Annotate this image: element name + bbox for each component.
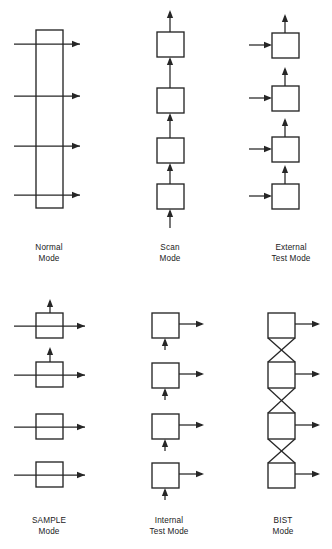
scan-mode-link-arrow-3 [167, 163, 173, 184]
external-test-mode-input-arrow-1 [249, 42, 272, 48]
normal-mode-register-rectangle [36, 30, 63, 208]
panel-internal-test-mode: Internal Test Mode [149, 313, 204, 536]
sample-mode-caption-line2: Mode [38, 527, 59, 536]
external-test-mode-cell-2 [272, 86, 299, 111]
external-test-mode-cell-3 [272, 137, 299, 162]
internal-test-mode-cell-3 [152, 414, 179, 439]
scan-mode-cell-3 [157, 138, 184, 163]
internal-test-mode-caption-line2: Test Mode [149, 527, 188, 536]
scan-mode-cell-2 [157, 88, 184, 113]
bist-mode-caption-line1: BIST [274, 516, 293, 525]
scan-mode-cell-4 [157, 184, 184, 209]
external-test-mode-input-arrow-2 [249, 95, 272, 101]
scan-mode-output-arrow [167, 10, 173, 32]
bist-mode-caption-line2: Mode [272, 527, 293, 536]
external-test-mode-input-arrow-3 [249, 146, 272, 152]
panel-normal-mode: Normal Mode [14, 30, 80, 263]
scan-mode-caption-line2: Mode [159, 254, 180, 263]
sample-mode-caption-line1: SAMPLE [32, 516, 67, 525]
internal-test-mode-cell-4 [152, 463, 179, 488]
sample-mode-tap-arrow-2 [47, 347, 53, 362]
diagram-canvas: Normal Mode [0, 0, 332, 549]
external-test-mode-cell-1 [272, 33, 299, 58]
external-test-mode-output-arrow-2 [282, 67, 288, 86]
internal-test-mode-output-arrow-2 [179, 371, 204, 377]
panel-external-test-mode: External Test Mode [249, 14, 311, 263]
internal-test-mode-input-arrow-1 [162, 338, 168, 350]
bist-mode-output-arrow-3 [295, 422, 320, 428]
external-test-mode-caption-line2: Test Mode [271, 254, 310, 263]
scan-mode-link-arrow-1 [167, 57, 173, 88]
bist-mode-cell-3 [268, 413, 295, 439]
scan-mode-cell-1 [157, 32, 184, 57]
normal-mode-caption-line1: Normal [35, 243, 62, 252]
internal-test-mode-cell-2 [152, 363, 179, 388]
panel-scan-mode: Scan Mode [157, 10, 184, 263]
bist-mode-output-arrow-1 [295, 321, 320, 327]
scan-mode-input-arrow [167, 209, 173, 228]
scan-mode-link-arrow-2 [167, 113, 173, 138]
external-test-mode-input-arrow-4 [249, 193, 272, 199]
mode-diagram-figure: Normal Mode [0, 0, 332, 549]
internal-test-mode-input-arrow-3 [162, 439, 168, 451]
external-test-mode-output-arrow-1 [282, 14, 288, 33]
internal-test-mode-input-arrow-4 [162, 488, 168, 500]
bist-mode-cell-1 [268, 313, 295, 338]
bist-mode-cross-link-3 [268, 439, 295, 463]
panel-sample-mode: SAMPLE Mode [14, 299, 85, 536]
internal-test-mode-cell-1 [152, 313, 179, 338]
bist-mode-cell-2 [268, 362, 295, 388]
sample-mode-tap-arrow-1 [47, 299, 53, 313]
internal-test-mode-output-arrow-1 [179, 321, 204, 327]
panel-bist-mode: BIST Mode [268, 313, 320, 536]
internal-test-mode-output-arrow-4 [179, 471, 204, 477]
internal-test-mode-input-arrow-2 [162, 388, 168, 400]
internal-test-mode-output-arrow-3 [179, 422, 204, 428]
external-test-mode-cell-4 [272, 184, 299, 209]
bist-mode-cross-link-1 [268, 338, 295, 362]
scan-mode-caption-line1: Scan [160, 243, 180, 252]
external-test-mode-caption-line1: External [275, 243, 306, 252]
bist-mode-output-arrow-4 [295, 471, 320, 477]
external-test-mode-output-arrow-3 [282, 118, 288, 137]
normal-mode-caption-line2: Mode [38, 254, 59, 263]
internal-test-mode-caption-line1: Internal [155, 516, 184, 525]
external-test-mode-output-arrow-4 [282, 165, 288, 184]
bist-mode-cell-4 [268, 463, 295, 488]
bist-mode-output-arrow-2 [295, 371, 320, 377]
bist-mode-cross-link-2 [268, 388, 295, 413]
